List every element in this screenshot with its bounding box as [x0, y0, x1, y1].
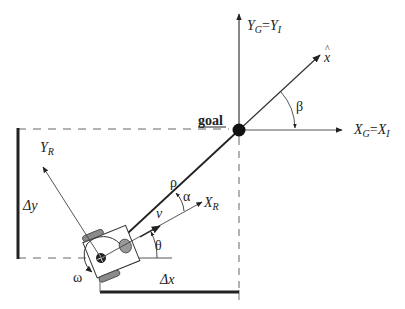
robot-kinematics-diagram: YG=YI XG=XI x ^ β goal YR XR ρ α v θ ω Δ…	[0, 0, 405, 309]
y-robot-label: YR	[40, 140, 54, 157]
goal-point	[233, 124, 246, 137]
x-global-label: XG=XI	[353, 122, 390, 139]
omega-label: ω	[73, 270, 82, 285]
theta-label: θ	[155, 238, 162, 253]
rho-label: ρ	[170, 175, 177, 190]
goal-label: goal	[198, 113, 223, 128]
x-hat-axis	[239, 55, 320, 130]
beta-arc	[281, 92, 295, 128]
nu-label: v	[156, 206, 163, 221]
x-robot-label: XR	[203, 195, 219, 212]
alpha-label: α	[183, 189, 191, 204]
beta-label: β	[296, 99, 303, 114]
delta-x-label: Δx	[159, 272, 175, 287]
delta-y-label: Δy	[22, 198, 38, 213]
y-robot-axis	[43, 167, 101, 258]
y-global-label: YG=YI	[247, 18, 282, 35]
x-hat-accent: ^	[325, 43, 330, 54]
velocity-arrow	[140, 226, 160, 237]
